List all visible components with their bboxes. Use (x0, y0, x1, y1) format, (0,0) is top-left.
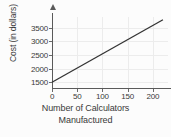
x-axis-title: Number of Calculators Manufactured (0, 103, 171, 126)
y-tick-label: 1500 (31, 78, 48, 87)
plot-area: 15002000250030003500 050100150200 (52, 17, 168, 89)
y-axis-title: Cost (in dollars) (8, 0, 18, 74)
y-tick-label: 3000 (31, 37, 48, 46)
series-layer (52, 13, 171, 89)
y-tick-label: 2500 (31, 51, 48, 60)
chart-figure: Cost (in dollars) 15002000250030003500 0… (0, 0, 171, 137)
x-tick-label: 0 (50, 92, 54, 101)
x-tick-label: 100 (96, 92, 109, 101)
y-tick-label: 3500 (31, 23, 48, 32)
cost-line-series (52, 20, 163, 82)
y-tick-label: 2000 (31, 64, 48, 73)
x-tick-label: 50 (73, 92, 82, 101)
x-tick-label: 200 (146, 92, 159, 101)
x-axis-title-line-1: Number of Calculators (0, 103, 171, 115)
x-tick-label: 150 (121, 92, 134, 101)
x-axis-title-line-2: Manufactured (0, 115, 171, 127)
y-axis-arrow-icon (50, 4, 56, 10)
